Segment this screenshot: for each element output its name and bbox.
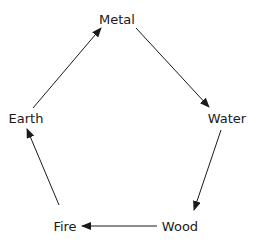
node-wood: Wood — [162, 219, 198, 234]
arrow-earth-to-metal — [33, 28, 101, 108]
node-metal: Metal — [99, 12, 135, 27]
node-earth: Earth — [9, 111, 44, 126]
arrow-fire-to-earth — [27, 129, 59, 205]
node-water: Water — [208, 111, 246, 126]
arrow-water-to-wood — [194, 130, 221, 210]
arrow-metal-to-water — [136, 28, 209, 107]
node-fire: Fire — [53, 219, 76, 234]
